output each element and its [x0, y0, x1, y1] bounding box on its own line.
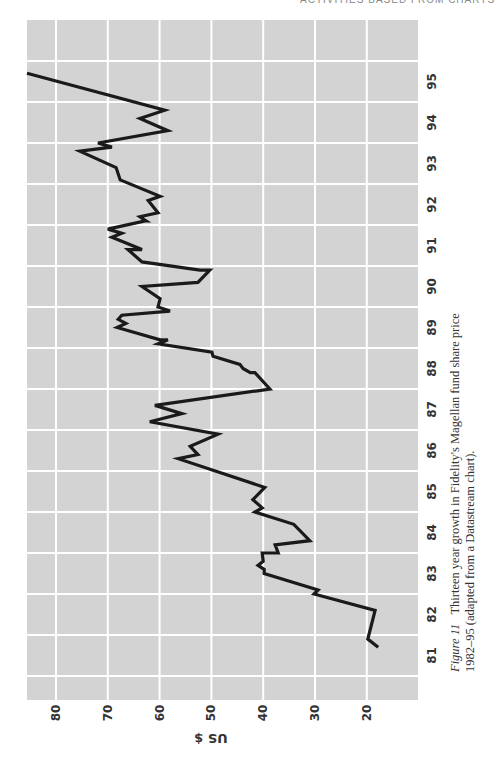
year-tick-label: 82: [425, 606, 439, 623]
year-tick-label: 81: [425, 647, 439, 664]
value-tick-label: 50: [204, 705, 218, 722]
value-tick-label: 70: [101, 705, 115, 722]
year-tick-label: 89: [425, 319, 439, 336]
year-tick-label: 93: [425, 155, 439, 172]
value-tick-label: 20: [360, 705, 374, 722]
year-tick-label: 85: [425, 483, 439, 500]
year-axis-labels: 818283848586878889909192939495: [425, 73, 439, 664]
year-tick-label: 84: [425, 524, 439, 541]
year-tick-label: 87: [425, 401, 439, 418]
figure-label: Figure 11: [448, 624, 462, 672]
year-tick-label: 91: [425, 237, 439, 254]
value-axis-labels: 20304050607080: [49, 705, 374, 722]
year-tick-label: 95: [425, 73, 439, 90]
figure-caption: Figure 11 Thirteen year growth in Fideli…: [448, 313, 463, 672]
caption-line-2: 1982–95 (adapted from a Datastream chart…: [463, 451, 477, 672]
value-tick-label: 30: [308, 705, 322, 722]
year-tick-label: 92: [425, 196, 439, 213]
year-tick-label: 86: [425, 442, 439, 459]
year-tick-label: 94: [425, 114, 439, 131]
value-tick-label: 60: [153, 705, 167, 722]
figure-caption-line-2: 1982–95 (adapted from a Datastream chart…: [463, 451, 478, 672]
year-tick-label: 90: [425, 278, 439, 295]
year-tick-label: 83: [425, 565, 439, 582]
caption-line-1: Thirteen year growth in Fidelity's Magel…: [448, 313, 462, 614]
chart: 20304050607080 8182838485868788899091929…: [0, 0, 498, 766]
year-tick-label: 88: [425, 360, 439, 377]
value-axis-title: US $: [194, 731, 228, 746]
value-tick-label: 80: [49, 705, 63, 722]
value-tick-label: 40: [256, 705, 270, 722]
